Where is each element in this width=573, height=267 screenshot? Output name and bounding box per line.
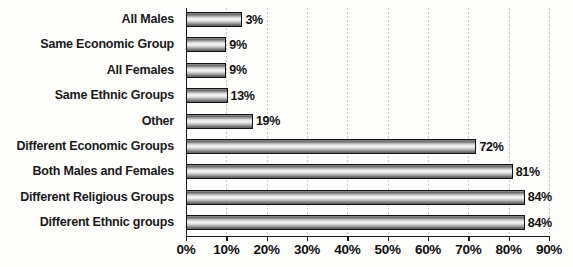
bar-row: 84%	[186, 190, 552, 205]
category-label: Same Ethnic Groups	[55, 88, 174, 103]
bar	[186, 215, 525, 230]
bar	[186, 12, 242, 27]
bar	[186, 139, 476, 154]
bar-value-label: 84%	[528, 190, 552, 204]
x-tick-label: 10%	[213, 242, 239, 257]
x-tick-label: 60%	[415, 242, 441, 257]
category-label: Both Males and Females	[33, 164, 174, 179]
category-label: Different Religious Groups	[20, 190, 174, 205]
x-tick	[267, 236, 268, 241]
category-axis-labels: All MalesSame Economic GroupAll FemalesS…	[0, 8, 180, 236]
bar-row: 72%	[186, 139, 504, 154]
x-tick	[509, 236, 510, 241]
bar-value-label: 19%	[256, 114, 280, 128]
plot-area: 3%9%9%13%19%72%81%84%84%	[186, 8, 549, 236]
bar	[186, 37, 226, 52]
category-label: All Males	[122, 12, 174, 27]
x-tick-label: 0%	[177, 242, 196, 257]
bar-row: 84%	[186, 215, 552, 230]
bar-value-label: 9%	[229, 38, 246, 52]
x-tick	[388, 236, 389, 241]
category-label: Different Ethnic groups	[40, 215, 174, 230]
x-tick	[347, 236, 348, 241]
bar-row: 81%	[186, 164, 540, 179]
bar-value-label: 9%	[229, 63, 246, 77]
bar-value-label: 84%	[528, 216, 552, 230]
bar	[186, 164, 513, 179]
x-tick-label: 20%	[254, 242, 280, 257]
category-label: Different Economic Groups	[16, 139, 174, 154]
bar-row: 9%	[186, 63, 247, 78]
bar-value-label: 13%	[231, 89, 255, 103]
bar-row: 19%	[186, 114, 280, 129]
x-tick	[186, 236, 187, 241]
x-tick	[226, 236, 227, 241]
bar	[186, 114, 253, 129]
x-tick	[428, 236, 429, 241]
bar-row: 9%	[186, 37, 247, 52]
x-tick-label: 70%	[455, 242, 481, 257]
x-axis-line	[186, 236, 550, 237]
x-tick-label: 40%	[334, 242, 360, 257]
bar	[186, 88, 228, 103]
bar-row: 3%	[186, 12, 263, 27]
bar-row: 13%	[186, 88, 255, 103]
x-tick-label: 30%	[294, 242, 320, 257]
x-tick-label: 90%	[536, 242, 562, 257]
x-tick-label: 50%	[375, 242, 401, 257]
x-tick-label: 80%	[496, 242, 522, 257]
bar-value-label: 81%	[516, 165, 540, 179]
category-label: Other	[142, 114, 174, 129]
bar-value-label: 72%	[479, 140, 503, 154]
category-label: All Females	[107, 63, 174, 78]
bar-value-label: 3%	[245, 13, 262, 27]
bar	[186, 190, 525, 205]
bar-chart: All MalesSame Economic GroupAll FemalesS…	[0, 0, 573, 267]
bar	[186, 63, 226, 78]
x-tick	[307, 236, 308, 241]
x-tick	[468, 236, 469, 241]
category-label: Same Economic Group	[40, 37, 174, 52]
x-tick	[549, 236, 550, 241]
